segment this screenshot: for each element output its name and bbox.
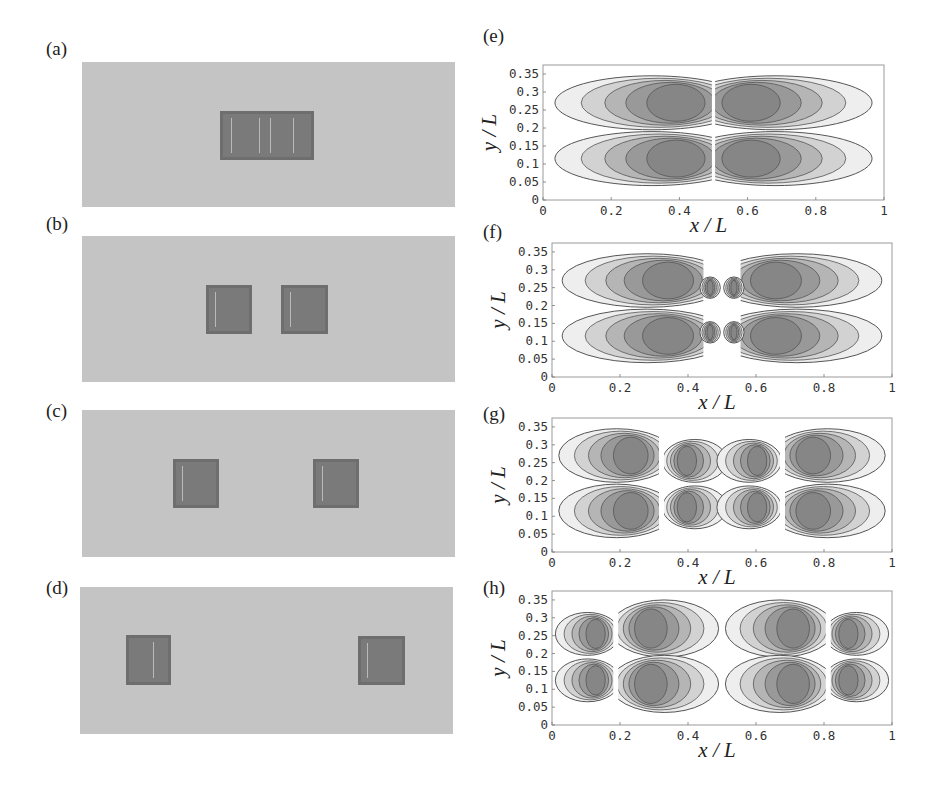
y-tick-label: 0.2: [525, 298, 548, 313]
x-tick-label: 0: [548, 728, 556, 743]
contour-lobe: [610, 655, 719, 712]
panel-label: (f): [483, 221, 502, 243]
contour-lobe: [824, 612, 889, 655]
y-axis-label: y / L: [486, 291, 510, 330]
y-tick-label: 0.2: [525, 646, 548, 661]
x-tick-label: 0.2: [609, 728, 632, 743]
y-tick-label: 0.25: [518, 455, 548, 470]
x-tick-label: 0.4: [677, 380, 700, 395]
contour-lobe: [610, 600, 719, 657]
y-tick-label: 0.1: [525, 681, 548, 696]
y-tick-label: 0.3: [525, 437, 548, 452]
x-tick-label: 0.4: [677, 555, 700, 570]
contour-lobe: [559, 484, 675, 538]
contour-plot-h: 00.050.10.150.20.250.30.3500.20.40.60.81…: [483, 577, 896, 762]
contour-lobe: [717, 439, 782, 482]
x-tick-label: 1: [888, 380, 896, 395]
contour-lobe: [770, 429, 886, 483]
x-axis-label: x / L: [697, 738, 735, 762]
y-tick-label: 0.05: [518, 699, 548, 714]
y-tick-label: 0.1: [525, 508, 548, 523]
x-tick-label: 1: [888, 555, 896, 570]
plot-frame: [552, 591, 892, 725]
y-tick-label: 0.25: [518, 628, 548, 643]
y-tick-label: 0.25: [509, 102, 539, 117]
y-tick-label: 0: [540, 544, 548, 559]
contour-lobe: [725, 600, 834, 657]
contour-lobe: [724, 277, 744, 298]
x-tick-label: 0.8: [813, 728, 836, 743]
y-tick-label: 0: [531, 192, 539, 207]
x-tick-label: 0.6: [745, 555, 768, 570]
y-tick-label: 0.3: [516, 84, 539, 99]
x-tick-label: 0.4: [668, 203, 691, 218]
x-tick-label: 0.6: [745, 380, 768, 395]
contour-plot-f: 00.050.10.150.20.250.30.3500.20.40.60.81…: [483, 221, 896, 414]
y-tick-label: 0.1: [516, 156, 539, 171]
panel-label: (e): [483, 25, 504, 47]
y-tick-label: 0.2: [516, 120, 539, 135]
contour-lobe: [717, 486, 782, 529]
y-tick-label: 0.15: [518, 315, 548, 330]
y-tick-label: 0.3: [525, 262, 548, 277]
y-axis-label: y / L: [486, 639, 510, 678]
x-tick-label: 0.2: [609, 555, 632, 570]
contour-lobe: [559, 429, 675, 483]
x-tick-label: 0: [548, 380, 556, 395]
y-tick-label: 0.15: [518, 490, 548, 505]
y-tick-label: 0.25: [518, 280, 548, 295]
x-tick-label: 0.4: [677, 728, 700, 743]
x-tick-label: 0: [548, 555, 556, 570]
y-tick-label: 0.05: [518, 351, 548, 366]
contour-lobe: [555, 612, 620, 655]
contour-lobe: [770, 484, 886, 538]
x-tick-label: 0: [539, 203, 547, 218]
contour-lobe: [555, 659, 620, 702]
x-tick-label: 1: [880, 203, 888, 218]
y-axis-label: y / L: [486, 466, 510, 505]
contour-lobe: [725, 655, 834, 712]
x-tick-label: 0.6: [736, 203, 759, 218]
y-tick-label: 0.15: [518, 663, 548, 678]
y-tick-label: 0.3: [525, 610, 548, 625]
x-tick-label: 0.8: [805, 203, 828, 218]
x-tick-label: 0.8: [813, 380, 836, 395]
contour-plots: 00.050.10.150.20.250.30.3500.20.40.60.81…: [0, 0, 940, 802]
contour-plot-g: 00.050.10.150.20.250.30.3500.20.40.60.81…: [483, 403, 896, 589]
x-tick-label: 0.2: [600, 203, 623, 218]
x-axis-label: x / L: [697, 565, 735, 589]
y-tick-label: 0.35: [509, 66, 539, 81]
contour-plot-e: 00.050.10.150.20.250.30.3500.20.40.60.81…: [477, 25, 888, 237]
contour-lobe: [700, 322, 720, 343]
contour-lobe: [824, 659, 889, 702]
y-tick-label: 0: [540, 717, 548, 732]
y-tick-label: 0.1: [525, 333, 548, 348]
x-tick-label: 0.8: [813, 555, 836, 570]
x-tick-label: 0.6: [745, 728, 768, 743]
y-tick-label: 0.15: [509, 138, 539, 153]
y-tick-label: 0.05: [518, 526, 548, 541]
y-tick-label: 0: [540, 369, 548, 384]
y-axis-label: y / L: [477, 114, 501, 153]
contour-lobe: [700, 277, 720, 298]
x-axis-label: x / L: [697, 390, 735, 414]
y-tick-label: 0.35: [518, 419, 548, 434]
x-axis-label: x / L: [689, 213, 727, 237]
y-tick-label: 0.35: [518, 592, 548, 607]
x-tick-label: 1: [888, 728, 896, 743]
contour-lobe: [724, 322, 744, 343]
x-tick-label: 0.2: [609, 380, 632, 395]
panel-label: (h): [483, 577, 505, 599]
y-tick-label: 0.05: [509, 174, 539, 189]
y-tick-label: 0.2: [525, 473, 548, 488]
y-tick-label: 0.35: [518, 244, 548, 259]
panel-label: (g): [483, 403, 505, 425]
